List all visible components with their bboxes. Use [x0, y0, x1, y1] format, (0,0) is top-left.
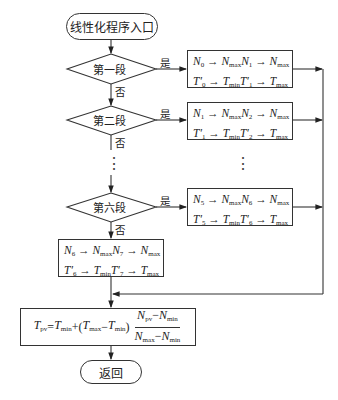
process-box-1-line-2: T′0 → TminT′1 → Tmax	[193, 73, 287, 93]
formula-fraction: Npv−Nmin Nmax−Nmin	[133, 307, 183, 348]
process-box-3-line-1: N5 → NmaxN6 → Nmax	[193, 191, 287, 211]
no-label-1: 否	[115, 84, 125, 99]
ellipsis-right: ⋮	[235, 156, 251, 172]
decision-1-label: 第一段	[93, 61, 126, 77]
process-box-1: N0 → NmaxN1 → Nmax T′0 → TminT′1 → Tmax	[187, 50, 293, 88]
no-label-3: 否	[115, 222, 125, 237]
fraction-numerator: Npv−Nmin	[135, 307, 180, 328]
formula-box: Tpv = Tmin +( Tmax − Tmin ) Npv−Nmin Nma…	[20, 308, 196, 346]
process-box-2: N1 → NmaxN2 → Nmax T′1 → TminT′2 → Tmax	[187, 102, 293, 140]
process-box-2-line-1: N1 → NmaxN2 → Nmax	[193, 105, 287, 125]
default-box-line-2: T′6 → TminT′7 → Tmax	[64, 262, 158, 282]
no-label-2: 否	[115, 135, 125, 150]
yes-label-3: 是	[160, 193, 170, 208]
start-terminal: 线性化程序入口	[66, 13, 158, 40]
end-terminal: 返回	[80, 360, 142, 384]
decision-2-label: 第二段	[93, 112, 126, 128]
end-label: 返回	[99, 364, 123, 381]
fraction-denominator: Nmax−Nmin	[133, 328, 183, 348]
process-box-1-line-1: N0 → NmaxN1 → Nmax	[193, 53, 287, 73]
ellipsis-left: ⋮	[106, 156, 122, 172]
formula-lhs: Tpv	[34, 317, 48, 337]
default-box-line-1: N6 → NmaxN7 → Nmax	[64, 242, 158, 262]
start-label: 线性化程序入口	[70, 18, 154, 35]
default-process-box: N6 → NmaxN7 → Nmax T′6 → TminT′7 → Tmax	[58, 239, 164, 277]
process-box-2-line-2: T′1 → TminT′2 → Tmax	[193, 125, 287, 145]
process-box-3: N5 → NmaxN6 → Nmax T′5 → TminT′6 → Tmax	[187, 188, 293, 226]
decision-3-label: 第六段	[93, 199, 126, 215]
process-box-3-line-2: T′5 → TminT′6 → Tmax	[193, 211, 287, 231]
yes-label-1: 是	[160, 55, 170, 70]
yes-label-2: 是	[160, 106, 170, 121]
